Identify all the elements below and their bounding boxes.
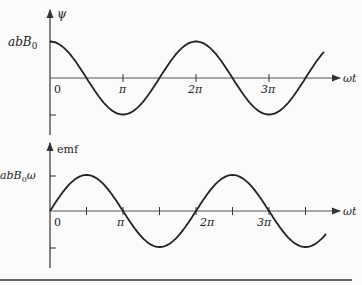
psi-amplitude-label: abB0 (8, 35, 38, 51)
psi-x-label: ωt (343, 72, 357, 85)
waveform-diagram: ψ abB0 0 π 2π 3π ωt emf abB0ω 0 π 2π 3π … (0, 0, 362, 285)
emf-x-label: ωt (343, 205, 357, 218)
emf-tick-label-3pi: 3π (257, 216, 272, 229)
emf-y-label: emf (57, 143, 79, 156)
emf-amplitude-label: abB0ω (0, 169, 36, 184)
figure: ψ abB0 0 π 2π 3π ωt emf abB0ω 0 π 2π 3π … (0, 0, 362, 285)
psi-tick-label-2pi: 2π (187, 83, 203, 96)
psi-origin-label: 0 (54, 83, 61, 96)
emf-tick-label-2pi: 2π (199, 216, 215, 229)
psi-plot: ψ abB0 0 π 2π 3π ωt (8, 7, 357, 135)
psi-tick-label-pi: π (118, 83, 127, 96)
psi-tick-label-3pi: 3π (261, 83, 276, 96)
emf-tick-label-pi: π (116, 216, 125, 229)
emf-origin-label: 0 (54, 216, 61, 229)
psi-y-label: ψ (57, 7, 67, 21)
emf-plot: emf abB0ω 0 π 2π 3π ωt (0, 143, 357, 268)
